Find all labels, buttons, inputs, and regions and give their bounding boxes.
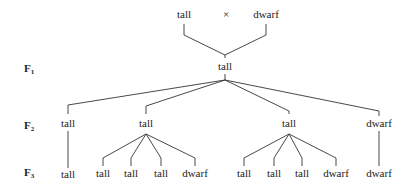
generation-label-f3: F3 <box>24 166 35 180</box>
connector <box>146 134 161 166</box>
connector <box>103 134 146 166</box>
f3-tall: tall <box>124 167 138 179</box>
connector <box>274 134 289 166</box>
f3-tall: tall <box>267 167 281 179</box>
f2-tall-3: tall <box>282 117 296 129</box>
f3-dwarf: dwarf <box>182 167 208 179</box>
generation-label-f2: F2 <box>24 119 35 133</box>
inheritance-diagram: tall × dwarf F1 F2 F3 tall tall tall tal… <box>0 0 410 188</box>
parent-dwarf: dwarf <box>253 8 279 20</box>
f3-dwarf: dwarf <box>323 167 349 179</box>
connector <box>225 80 289 114</box>
connector <box>289 134 336 166</box>
f2-dwarf: dwarf <box>366 117 392 129</box>
connector <box>146 134 195 166</box>
connector <box>225 24 266 55</box>
f3-tall: tall <box>96 167 110 179</box>
generation-label-f1: F1 <box>24 62 35 76</box>
f3-tall: tall <box>61 168 75 180</box>
f3-tall: tall <box>295 167 309 179</box>
f3-tall: tall <box>154 167 168 179</box>
connector <box>289 134 302 166</box>
f3-dwarf: dwarf <box>366 167 392 179</box>
connector <box>146 80 225 114</box>
connector <box>184 24 225 55</box>
connector <box>244 134 289 166</box>
parent-tall: tall <box>177 8 191 20</box>
f2-tall-2: tall <box>139 117 153 129</box>
connector <box>131 134 146 166</box>
f3-tall: tall <box>237 167 251 179</box>
connector <box>225 80 379 116</box>
f1-tall: tall <box>218 60 232 72</box>
connector <box>68 80 225 114</box>
cross-symbol: × <box>223 8 229 20</box>
f2-tall-1: tall <box>61 117 75 129</box>
